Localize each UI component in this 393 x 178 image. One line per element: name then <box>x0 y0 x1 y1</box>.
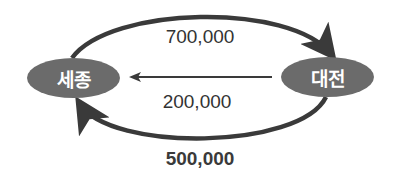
flow-label-bottom: 500,000 <box>166 148 235 170</box>
node-daejeon: 대전 <box>281 57 374 97</box>
flow-label-middle: 200,000 <box>163 91 232 113</box>
flow-diagram: 세종 대전 700,000 200,000 500,000 <box>0 0 393 178</box>
flow-label-top: 700,000 <box>166 26 235 48</box>
node-daejeon-label: 대전 <box>311 64 345 91</box>
node-sejong: 세종 <box>27 58 120 98</box>
node-sejong-label: 세종 <box>57 65 91 92</box>
